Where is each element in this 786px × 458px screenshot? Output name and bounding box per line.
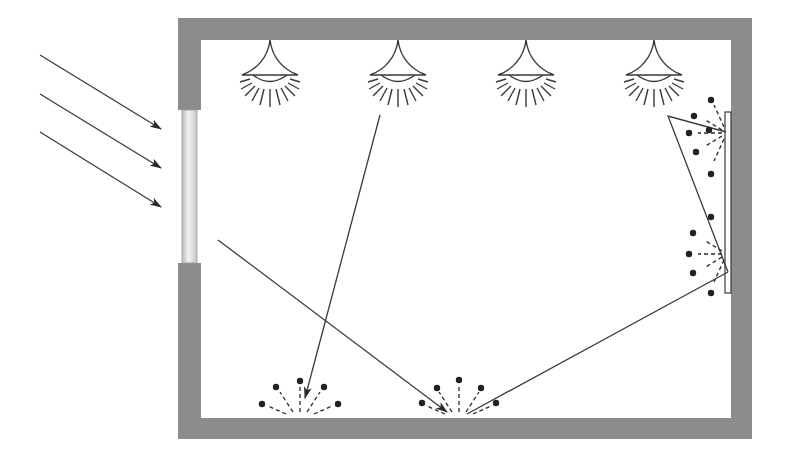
left-wall-upper	[178, 18, 201, 110]
diffuse-reflection-floor-2	[419, 377, 499, 414]
ceiling-wall	[178, 18, 752, 40]
room-lighting-diagram: Room lighting: daylight, artificial ligh…	[0, 0, 786, 458]
diffuse-reflection-wall-1	[686, 97, 724, 177]
window-glass	[182, 110, 197, 263]
sunlight-rays	[40, 55, 161, 207]
sun-ray-arrow-1	[40, 55, 161, 129]
floor-reflection-to-wall	[467, 272, 728, 414]
window	[182, 110, 197, 263]
diagram-canvas: Room lighting: daylight, artificial ligh…	[0, 0, 786, 458]
sun-ray-arrow-2	[40, 94, 161, 168]
ceiling-lamps	[240, 40, 684, 107]
light-paths	[218, 115, 728, 414]
left-wall-lower	[178, 263, 201, 439]
ceiling-lamp-icon	[496, 40, 556, 107]
sun-ray-arrow-3	[40, 132, 161, 207]
floor-wall	[178, 418, 752, 439]
ceiling-lamp-icon	[624, 40, 684, 107]
diffuse-reflection-floor-1	[259, 378, 341, 414]
right-wall	[731, 18, 752, 439]
ceiling-lamp-icon	[368, 40, 428, 107]
ceiling-lamp-icon	[240, 40, 300, 107]
daylight-ray-to-floor	[218, 240, 447, 412]
lamp-ray-to-floor	[305, 115, 380, 398]
